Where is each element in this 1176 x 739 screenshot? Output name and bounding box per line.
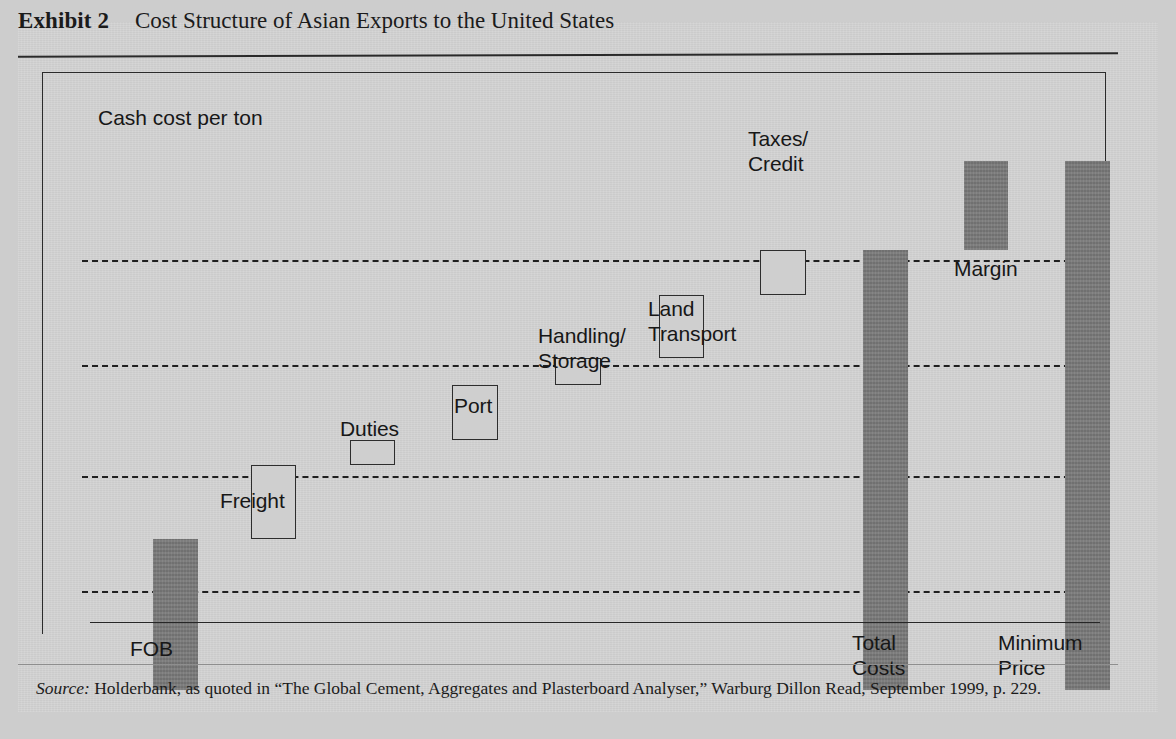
page-title: Cost Structure of Asian Exports to the U…	[109, 8, 614, 33]
x-label-total-costs: Total Costs	[852, 630, 905, 680]
bar-taxes-credit	[760, 250, 806, 295]
source-note: Source: Holderbank, as quoted in “The Gl…	[36, 678, 1146, 699]
annotation-taxes-credit: Taxes/ Credit	[748, 126, 808, 176]
gridline-2	[82, 476, 1100, 478]
annotation-margin: Margin	[954, 256, 1018, 281]
exhibit-page: Exhibit 2Cost Structure of Asian Exports…	[0, 0, 1176, 739]
annotation-port: Port	[454, 393, 492, 418]
exhibit-label: Exhibit 2	[18, 8, 109, 33]
x-axis-baseline	[90, 622, 1100, 623]
annotation-duties: Duties	[340, 416, 399, 441]
source-text: Holderbank, as quoted in “The Global Cem…	[90, 678, 1041, 698]
chart-axis-note: Cash cost per ton	[98, 106, 263, 130]
bar-fob	[153, 539, 198, 690]
x-label-fob: FOB	[130, 636, 173, 661]
bar-duties	[350, 440, 395, 465]
annotation-handling-storage: Handling/ Storage	[538, 323, 626, 373]
annotation-freight: Freight	[220, 488, 285, 513]
bar-total-costs	[863, 250, 908, 690]
bar-margin	[964, 161, 1008, 250]
annotation-land-transport: Land Transport	[648, 296, 736, 346]
x-label-minimum-price: Minimum Price	[998, 630, 1082, 680]
gridline-0	[82, 260, 1100, 262]
waterfall-chart: Cash cost per ton Taxes/ CreditMarginLan…	[30, 68, 1114, 631]
exhibit-header: Exhibit 2Cost Structure of Asian Exports…	[18, 8, 1118, 52]
gridline-3	[82, 591, 1100, 593]
bar-minimum-price	[1065, 161, 1110, 690]
footer-divider	[18, 664, 1118, 665]
source-prefix: Source:	[36, 678, 90, 698]
